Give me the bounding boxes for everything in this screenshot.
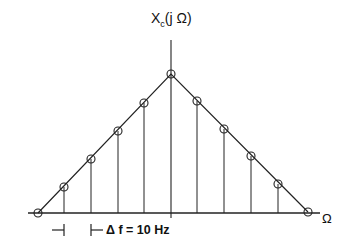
spacing-label: Δ f = 10 Hz [106, 223, 170, 237]
diagram-canvas [0, 0, 345, 250]
y-axis-label: Xc(j Ω) [151, 10, 192, 29]
triangle-envelope [38, 74, 308, 213]
x-axis-label: Ω [322, 211, 332, 226]
delta-f-marker [52, 224, 103, 236]
spectrum-diagram: Xc(j Ω) Ω Δ f = 10 Hz [0, 0, 345, 250]
sample-markers [34, 70, 312, 217]
